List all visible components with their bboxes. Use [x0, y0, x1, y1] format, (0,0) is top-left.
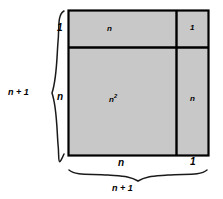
- dimension-left-total: n + 1: [8, 88, 29, 97]
- cell-label-top-right: 1: [190, 24, 194, 32]
- dimension-left-bottom-segment: n: [57, 92, 63, 102]
- cell-label-mid-right: n: [190, 95, 195, 103]
- outer-square: [69, 11, 209, 156]
- dimension-bottom-left-segment: n: [118, 158, 124, 168]
- left-brace: [52, 11, 64, 162]
- dimension-left-top-segment: 1: [57, 23, 63, 33]
- dimension-bottom-right-segment: 1: [190, 157, 196, 167]
- area-model-figure: n 1 n2 n 1 n n + 1 n 1 n + 1: [0, 0, 223, 199]
- cell-label-center-superscript: 2: [114, 93, 117, 99]
- bottom-brace: [69, 170, 207, 181]
- cell-label-top-left: n: [107, 25, 112, 33]
- cell-label-center: n2: [109, 94, 117, 104]
- dimension-bottom-total: n + 1: [112, 184, 133, 193]
